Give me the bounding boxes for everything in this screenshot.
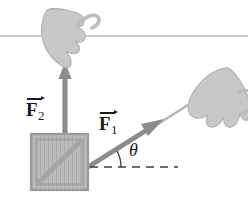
force-2-arrow: [58, 62, 71, 134]
force-1-vector-bar-icon: [99, 110, 118, 115]
force-2-label: F2: [26, 96, 45, 122]
angle-theta-label: θ: [129, 140, 138, 161]
hand-top: [42, 8, 99, 67]
angle-arc: [117, 151, 121, 167]
force-2-vector-bar-icon: [26, 96, 45, 101]
rope-diagonal: [158, 105, 188, 124]
force-2-symbol: F: [26, 99, 38, 120]
hand-top-palm: [42, 8, 86, 67]
force-1-label: F1: [99, 110, 118, 136]
force-1-shaft: [88, 128, 150, 167]
hand-right: [188, 68, 248, 128]
hand-right-palm: [188, 68, 248, 128]
force-2-subscript: 2: [38, 108, 45, 123]
physics-force-diagram: F2 F1 θ: [0, 0, 248, 212]
force-1-symbol: F: [99, 113, 111, 134]
force-1-subscript: 1: [111, 122, 118, 137]
crate: [31, 134, 88, 190]
